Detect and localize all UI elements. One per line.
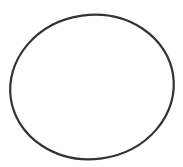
ellipse-outline	[1, 4, 183, 167]
ellipse-drawing	[0, 0, 183, 167]
drawing-canvas	[0, 0, 183, 167]
